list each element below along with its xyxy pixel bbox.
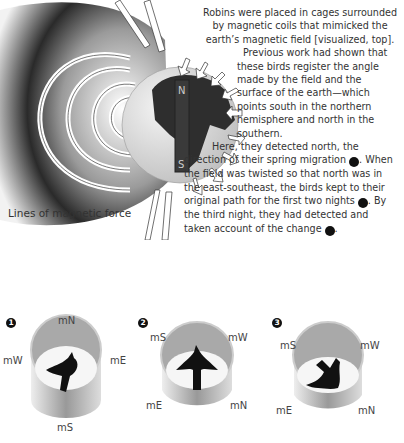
- cage-1-label-mE: mE: [110, 355, 126, 366]
- cage-2: 2 mS mW mE mN: [132, 310, 267, 443]
- cage-1: 1 mN mW mE mS: [0, 310, 135, 443]
- cage-1-label-mW: mW: [3, 355, 23, 366]
- paragraph-3: Here, they detected north, the direction…: [182, 140, 398, 236]
- step-badge-2: 2: [358, 198, 368, 208]
- cage-3: 3 mS mW mE mN: [266, 310, 401, 443]
- paragraph-2: Previous work had shown that these birds…: [182, 46, 398, 140]
- cage-2-label-mE: mE: [146, 400, 162, 411]
- paragraph-1: Robins were placed in cages surrounded b…: [182, 6, 398, 46]
- cage-2-label-mS: mS: [150, 332, 166, 343]
- cage-3-label-mS: mS: [280, 340, 296, 351]
- cage-2-label-mW: mW: [228, 332, 248, 343]
- cage-2-graphic: [132, 310, 267, 443]
- cage-3-label-mN: mN: [358, 405, 375, 416]
- cage-3-label-mW: mW: [360, 340, 380, 351]
- field-caption: Lines of magnetic force: [8, 207, 131, 219]
- cage-1-label-mN: mN: [58, 315, 75, 326]
- cage-2-label-mN: mN: [230, 400, 247, 411]
- article-text: Robins were placed in cages surrounded b…: [182, 6, 398, 236]
- step-badge-1: 1: [349, 157, 359, 167]
- cage-1-label-mS: mS: [57, 422, 73, 433]
- cage-3-graphic: [266, 310, 401, 443]
- paragraph-3-part-a: Here, they detected north, the direction…: [184, 141, 359, 165]
- step-badge-3: 3: [325, 226, 335, 236]
- cage-3-label-mE: mE: [276, 405, 292, 416]
